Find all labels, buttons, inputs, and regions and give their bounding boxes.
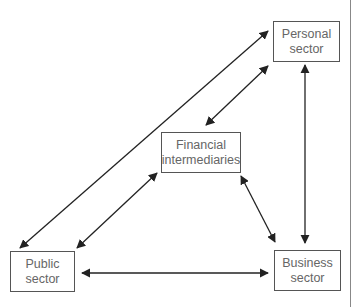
node-label-line: sector xyxy=(290,271,324,286)
node-business-sector: Business sector xyxy=(274,250,341,291)
node-label-line: sector xyxy=(289,42,323,57)
node-label-line: Business xyxy=(282,256,333,271)
node-label-line: Public xyxy=(25,257,59,272)
node-financial-intermediaries: Financial intermediaries xyxy=(161,132,241,173)
node-label-line: intermediaries xyxy=(162,153,241,168)
arrow-financial-personal xyxy=(206,66,268,125)
node-label-line: Personal xyxy=(282,27,331,42)
node-public-sector: Public sector xyxy=(10,251,75,292)
node-label-line: sector xyxy=(25,272,59,287)
node-label-line: Financial xyxy=(176,138,226,153)
arrow-financial-business xyxy=(241,176,275,242)
arrow-public-financial xyxy=(77,173,157,248)
node-personal-sector: Personal sector xyxy=(273,21,340,62)
